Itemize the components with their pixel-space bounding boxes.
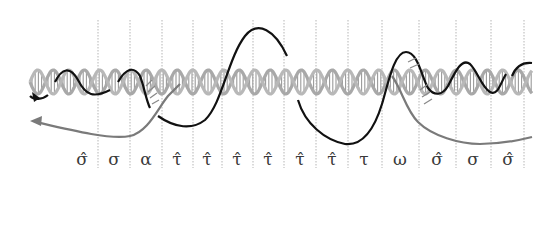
column-label: σ̂ [76, 148, 88, 170]
black-strand-dip [298, 52, 506, 144]
column-label: σ̂ [502, 148, 514, 170]
column-label: σ [108, 148, 120, 170]
column-label: τ̂ [232, 148, 241, 170]
column-label: τ̂ [263, 148, 272, 170]
column-label: ω [393, 148, 407, 170]
column-label: τ [359, 148, 368, 170]
column-label: τ̂ [295, 148, 304, 170]
column-label: σ [467, 148, 479, 170]
column-label: σ̂ [431, 148, 443, 170]
column-labels: σ̂σατ̂τ̂τ̂τ̂τ̂τ̂τωσ̂σσ̂ [0, 148, 554, 172]
column-label: τ̂ [172, 148, 181, 170]
column-label: α [140, 148, 151, 170]
column-label: τ̂ [327, 148, 336, 170]
arrowhead-left-icon [30, 116, 42, 126]
column-label: τ̂ [202, 148, 211, 170]
